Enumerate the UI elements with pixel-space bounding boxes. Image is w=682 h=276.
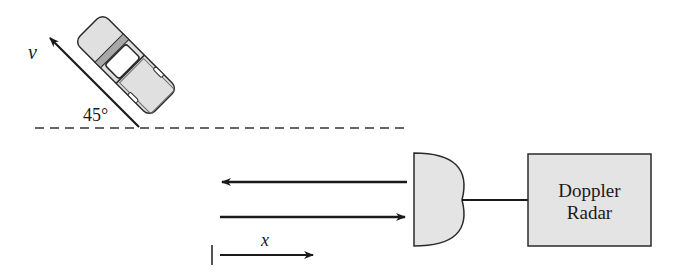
distance-label: x: [260, 230, 269, 250]
radar-dish: [414, 153, 464, 246]
radar-label-line1: Doppler: [558, 180, 621, 201]
velocity-label: v: [28, 41, 37, 63]
car: [74, 13, 177, 116]
angle-label: 45°: [83, 105, 108, 125]
radar-label-line2: Radar: [567, 202, 613, 223]
doppler-radar-diagram: v 45° x Doppler Radar: [0, 0, 682, 276]
